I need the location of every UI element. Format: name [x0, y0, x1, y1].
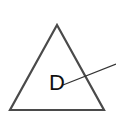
triangle-shape	[10, 25, 104, 110]
triangle-label: D	[49, 70, 65, 95]
diagram-canvas: D	[0, 0, 116, 125]
